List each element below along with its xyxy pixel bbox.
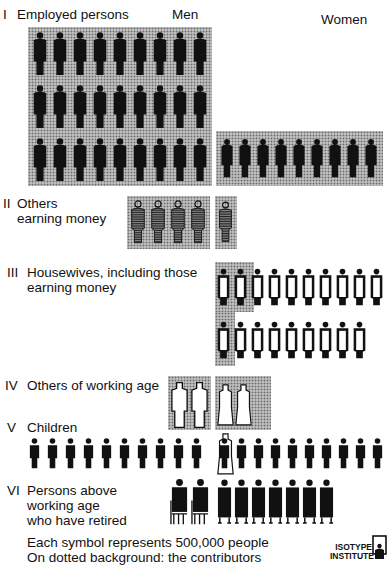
person-symbol-icon: [131, 135, 149, 184]
person-symbol-icon: [301, 317, 316, 363]
housewives-row1-figures: [216, 264, 388, 310]
row-3-numeral: III: [7, 265, 27, 280]
person-symbol-icon: [335, 317, 350, 363]
person-symbol-icon: [337, 437, 350, 470]
others-working-men-figures: [170, 380, 210, 429]
person-symbol-icon: [151, 29, 169, 78]
person-symbol-icon: [31, 135, 49, 184]
row-6-text-3: who have retired: [7, 513, 127, 528]
person-symbol-icon: [71, 135, 89, 184]
person-symbol-icon: [284, 317, 299, 363]
person-symbol-icon: [172, 437, 185, 470]
logo-line-2: INSTITUTE: [330, 552, 372, 561]
others-earning-women-figures: [217, 198, 236, 248]
person-symbol-icon: [217, 198, 234, 246]
retired-men-figures: [170, 477, 212, 527]
legend: Each symbol represents 500,000 people On…: [27, 535, 269, 565]
person-symbol-icon: [46, 437, 59, 470]
person-symbol-icon: [369, 264, 384, 310]
person-symbol-icon: [191, 135, 209, 184]
person-symbol-icon: [190, 437, 203, 470]
person-symbol-icon: [354, 437, 367, 470]
person-symbol-icon: [318, 317, 333, 363]
person-symbol-icon: [131, 29, 149, 78]
person-symbol-icon: [171, 135, 189, 184]
row-1-label: IEmployed persons: [3, 7, 129, 22]
row-3-text-1: Housewives, including those: [27, 265, 197, 280]
person-symbol-icon: [218, 437, 231, 470]
row-6-text-1: Persons above: [27, 483, 117, 498]
others-earning-men-figures: [129, 198, 209, 248]
row-2-text-2: earning money: [3, 211, 106, 226]
person-symbol-icon: [71, 29, 89, 78]
person-symbol-icon: [216, 317, 231, 363]
person-symbol-icon: [237, 133, 253, 183]
person-symbol-icon: [318, 264, 333, 310]
person-symbol-icon: [151, 135, 169, 184]
person-symbol-icon: [189, 198, 207, 246]
row-2-text-1: Others: [17, 196, 58, 211]
person-symbol-icon: [219, 133, 235, 183]
person-symbol-icon: [191, 477, 210, 526]
person-symbol-icon: [111, 135, 129, 184]
person-symbol-icon: [302, 477, 317, 526]
person-symbol-icon: [252, 437, 265, 470]
person-symbol-icon: [291, 133, 307, 183]
person-symbol-icon: [136, 437, 149, 470]
person-symbol-icon: [303, 437, 316, 470]
person-symbol-icon: [51, 29, 69, 78]
person-symbol-icon: [327, 133, 343, 183]
person-symbol-icon: [51, 82, 69, 131]
person-symbol-icon: [320, 437, 333, 470]
retired-women-figures: [217, 477, 337, 527]
row-5-numeral: V: [7, 420, 27, 435]
person-symbol-icon: [169, 198, 187, 246]
women-header: Women: [321, 12, 367, 27]
person-symbol-icon: [233, 317, 248, 363]
children-girls-figures: [218, 437, 388, 471]
row-3-text-2: earning money: [7, 280, 197, 295]
person-symbol-icon: [91, 82, 109, 131]
person-symbol-icon: [190, 380, 209, 429]
person-symbol-icon: [251, 477, 266, 526]
person-symbol-icon: [233, 264, 248, 310]
person-symbol-icon: [284, 264, 299, 310]
person-symbol-icon: [111, 29, 129, 78]
person-symbol-icon: [171, 29, 189, 78]
person-symbol-icon: [100, 437, 113, 470]
person-symbol-icon: [235, 380, 252, 429]
person-symbol-icon: [82, 437, 95, 470]
housewives-row2-figures: [216, 317, 388, 363]
person-symbol-icon: [267, 317, 282, 363]
row-4-text: Others of working age: [27, 378, 159, 393]
person-symbol-icon: [64, 437, 77, 470]
person-symbol-icon: [250, 264, 265, 310]
row-5-text: Children: [27, 420, 77, 435]
row-1-text: Employed persons: [17, 7, 129, 22]
person-symbol-icon: [363, 133, 379, 183]
employed-men-figures: [31, 29, 211, 185]
person-symbol-icon: [268, 477, 283, 526]
person-symbol-icon: [335, 264, 350, 310]
row-3-label: IIIHousewives, including those earning m…: [7, 265, 197, 295]
row-6-numeral: VI: [7, 483, 27, 498]
person-symbol-icon: [129, 198, 147, 246]
person-symbol-icon: [31, 82, 49, 131]
person-symbol-icon: [273, 133, 289, 183]
person-symbol-icon: [149, 198, 167, 246]
person-symbol-icon: [191, 82, 209, 131]
row-6-label: VIPersons above working age who have ret…: [7, 483, 127, 528]
row-2-label: IIOthers earning money: [3, 196, 106, 226]
person-symbol-icon: [285, 477, 300, 526]
row-4-label: IVOthers of working age: [5, 378, 159, 393]
person-symbol-icon: [234, 477, 249, 526]
children-boys-figures: [28, 437, 208, 471]
person-symbol-icon: [28, 437, 41, 470]
person-symbol-icon: [309, 133, 325, 183]
row-6-text-2: working age: [7, 498, 127, 513]
person-symbol-icon: [345, 133, 361, 183]
person-symbol-icon: [91, 29, 109, 78]
person-symbol-icon: [131, 82, 149, 131]
isotype-logo: ISOTYPE INSTITUTE: [330, 533, 388, 563]
person-symbol-icon: [191, 29, 209, 78]
